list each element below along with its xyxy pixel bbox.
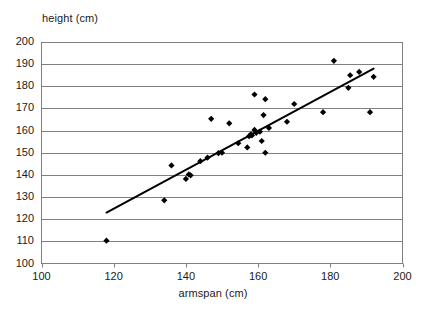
y-tick-label: 150 (4, 146, 34, 158)
data-point (260, 112, 266, 118)
x-tick-label: 100 (22, 270, 62, 282)
data-point (371, 74, 377, 80)
data-point (161, 197, 167, 203)
y-tick-label: 200 (4, 35, 34, 47)
x-axis-title: armspan (cm) (0, 287, 426, 299)
y-tick-label: 140 (4, 168, 34, 180)
y-tick-label: 120 (4, 212, 34, 224)
y-tick-label: 170 (4, 101, 34, 113)
data-point (262, 150, 268, 156)
data-point (226, 120, 232, 126)
data-point (208, 116, 214, 122)
x-tick-label: 180 (310, 270, 350, 282)
data-point (259, 138, 265, 144)
gridlines-group (42, 43, 403, 242)
x-tick-label: 160 (238, 270, 278, 282)
data-points-group (103, 58, 376, 244)
data-point (284, 119, 290, 125)
data-point (244, 144, 250, 150)
data-point (291, 101, 297, 107)
x-tick-label: 140 (166, 270, 206, 282)
data-point (168, 162, 174, 168)
y-tick-label: 100 (4, 257, 34, 269)
data-point (345, 85, 351, 91)
x-tick-label: 200 (383, 270, 423, 282)
scatter-chart: height (cm) 1001101201301401501601701801… (0, 0, 426, 311)
data-point (251, 91, 257, 97)
x-tick-label: 120 (94, 270, 134, 282)
x-tickmarks-group (43, 264, 404, 268)
y-tick-label: 190 (4, 57, 34, 69)
trend-line (106, 69, 373, 213)
data-point (367, 109, 373, 115)
data-point (262, 96, 268, 102)
y-tick-label: 160 (4, 124, 34, 136)
y-tick-label: 110 (4, 234, 34, 246)
data-point (331, 58, 337, 64)
y-tick-label: 180 (4, 79, 34, 91)
data-point (103, 238, 109, 244)
plot-area (0, 0, 426, 311)
data-point (320, 109, 326, 115)
y-tick-label: 130 (4, 190, 34, 202)
data-point (347, 72, 353, 78)
